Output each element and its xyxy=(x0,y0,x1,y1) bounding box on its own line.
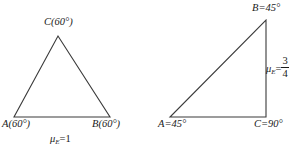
left-mu-value: 1 xyxy=(65,133,70,144)
right-mu-numerator: 3 xyxy=(281,56,288,67)
left-triangle-vertex-label-C: C(60°) xyxy=(44,16,73,27)
right-mu-fraction: 3 4 xyxy=(281,56,288,79)
right-triangle-vertex-label-C: C=90° xyxy=(254,118,283,129)
left-vertex-a-text: A(60°) xyxy=(2,118,30,129)
right-triangle-vertex-label-B: B=45° xyxy=(252,2,280,13)
left-triangle-mu-annotation: μE=1 xyxy=(50,133,71,146)
left-triangle-vertex-label-B: B(60°) xyxy=(92,118,120,129)
right-vertex-c-text: C=90° xyxy=(254,118,283,129)
right-triangle-vertex-label-A: A=45° xyxy=(158,118,186,129)
right-triangle-mu-annotation: μE= 3 4 xyxy=(266,56,289,79)
left-vertex-c-text: C(60°) xyxy=(44,16,73,27)
right-vertex-a-text: A=45° xyxy=(158,118,186,129)
right-mu-denominator: 4 xyxy=(281,69,288,80)
geometry-figure: C(60°) A(60°) B(60°) μE=1 B=45° A=45° C=… xyxy=(0,0,301,152)
left-triangle-vertex-label-A: A(60°) xyxy=(2,118,30,129)
right-vertex-b-text: B=45° xyxy=(252,2,280,13)
right-triangle-shape xyxy=(170,20,266,117)
left-equilateral-triangle-shape xyxy=(14,36,110,117)
left-vertex-b-text: B(60°) xyxy=(92,118,120,129)
